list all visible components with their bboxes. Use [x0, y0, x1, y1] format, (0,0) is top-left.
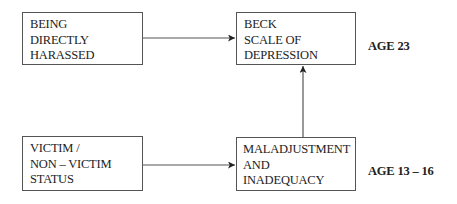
node-beck-scale-of-depression: BECK SCALE OF DEPRESSION [236, 12, 356, 65]
node-victim-status: VICTIM / NON – VICTIM STATUS [22, 136, 143, 191]
node-text: VICTIM / [30, 141, 142, 157]
node-text: MALADJUSTMENT [243, 142, 355, 158]
node-text: SCALE OF [244, 33, 355, 49]
node-text: DEPRESSION [244, 48, 355, 64]
node-text: STATUS [30, 172, 142, 188]
node-text: HARASSED [30, 48, 142, 64]
node-text: INADEQUACY [243, 173, 355, 189]
node-text: NON – VICTIM [30, 157, 142, 173]
node-text: BEING [30, 17, 142, 33]
node-being-directly-harassed: BEING DIRECTLY HARASSED [22, 12, 143, 65]
age-label-bottom: AGE 13 – 16 [368, 164, 434, 179]
node-maladjustment-and-inadequacy: MALADJUSTMENT AND INADEQUACY [236, 137, 356, 191]
age-label-top: AGE 23 [368, 39, 410, 54]
node-text: AND [243, 158, 355, 174]
node-text: BECK [244, 17, 355, 33]
node-text: DIRECTLY [30, 33, 142, 49]
